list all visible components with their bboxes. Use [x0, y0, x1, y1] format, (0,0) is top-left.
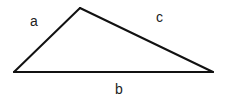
side-a [14, 8, 80, 72]
label-side-a: a [30, 13, 38, 29]
side-c [80, 8, 213, 72]
triangle-diagram: a c b [0, 0, 225, 100]
label-side-c: c [156, 9, 163, 25]
label-side-b: b [115, 81, 123, 97]
